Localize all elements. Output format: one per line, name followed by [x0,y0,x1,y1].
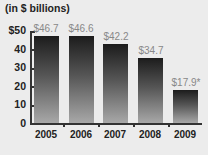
x-tick [98,123,100,127]
bar-2005 [34,36,59,123]
y-axis-line [30,31,32,125]
bar-2007 [103,44,128,123]
value-label: $46.7 [26,23,66,34]
x-axis-line [30,123,202,125]
x-tick [63,123,65,127]
bar-2006 [69,36,94,123]
y-tick-label: 0 [0,117,26,129]
value-label: $46.6 [61,23,101,34]
x-tick-label: 2009 [167,129,203,140]
x-tick-label: 2007 [97,129,133,140]
bar-2009 [173,90,198,123]
x-tick [133,123,135,127]
value-label: $34.7 [131,45,171,56]
x-tick-label: 2008 [132,129,168,140]
x-tick-label: 2005 [28,129,64,140]
y-tick-label: 10 [0,98,26,110]
y-tick-label: $50 [0,24,26,36]
x-tick-label: 2006 [63,129,99,140]
chart-title: (in $ billions) [5,2,70,14]
y-tick-label: 20 [0,80,26,92]
y-tick-label: 30 [0,61,26,73]
x-tick [168,123,170,127]
bar-2008 [138,58,163,123]
value-label: $17.9* [166,77,206,88]
value-label: $42.2 [96,31,136,42]
y-tick-label: 40 [0,43,26,55]
